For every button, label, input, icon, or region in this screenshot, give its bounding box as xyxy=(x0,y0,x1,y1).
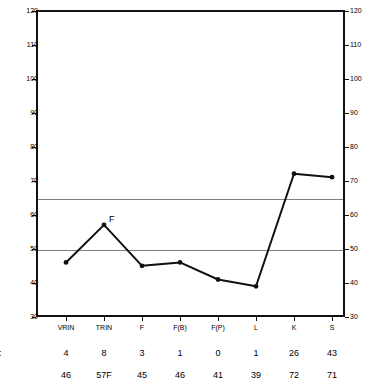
y-tick-mark xyxy=(345,45,349,46)
x-axis-label-trin: TRIN xyxy=(96,324,112,332)
cell-t-fb: 46 xyxy=(175,370,185,380)
cell-raw-f: 3 xyxy=(139,348,144,358)
cell-t-vrin: 46 xyxy=(61,370,71,380)
y-tick-label-right: 100 xyxy=(350,75,362,82)
score-table: ore: 4 8 3 1 0 1 26 43 : 46 57F 45 46 41… xyxy=(0,344,380,390)
cell-raw-fp: 0 xyxy=(215,348,220,358)
y-tick-label-right: 110 xyxy=(350,41,361,48)
cell-t-k: 72 xyxy=(289,370,299,380)
x-tick-mark xyxy=(218,317,219,321)
y-tick-label-right: 60 xyxy=(350,211,358,218)
y-tick-label-left: 50 xyxy=(30,245,38,252)
y-tick-label-left: 120 xyxy=(26,7,38,14)
y-tick-mark xyxy=(345,215,349,216)
cell-t-s: 71 xyxy=(327,370,337,380)
row-label-raw-score: ore: xyxy=(0,348,2,358)
x-tick-mark xyxy=(142,317,143,321)
cell-t-trin: 57F xyxy=(96,370,112,380)
cell-raw-l: 1 xyxy=(253,348,258,358)
y-tick-mark xyxy=(345,113,349,114)
x-axis-label-vrin: VRIN xyxy=(58,324,75,332)
y-tick-label-right: 120 xyxy=(350,7,362,14)
y-tick-label-left: 80 xyxy=(30,143,38,150)
point-annotation-trin-f: F xyxy=(109,215,115,224)
y-tick-label-right: 50 xyxy=(350,245,358,252)
cell-raw-k: 26 xyxy=(289,348,299,358)
cell-raw-vrin: 4 xyxy=(63,348,68,358)
y-tick-label-left: 40 xyxy=(30,279,38,286)
y-tick-label-left: 90 xyxy=(30,109,38,116)
y-tick-label-left: 60 xyxy=(30,211,38,218)
cell-t-fp: 41 xyxy=(213,370,223,380)
cell-t-f: 45 xyxy=(137,370,147,380)
x-tick-mark xyxy=(294,317,295,321)
y-tick-mark xyxy=(345,147,349,148)
x-tick-mark xyxy=(180,317,181,321)
y-tick-mark xyxy=(345,283,349,284)
reference-line-65 xyxy=(38,199,343,200)
plot-area xyxy=(36,10,345,317)
y-tick-label-right: 80 xyxy=(350,143,358,150)
x-tick-mark xyxy=(332,317,333,321)
x-axis-label-fp: F(P) xyxy=(211,324,225,332)
x-tick-mark xyxy=(66,317,67,321)
cell-raw-fb: 1 xyxy=(177,348,182,358)
y-tick-label-right: 90 xyxy=(350,109,358,116)
x-axis-label-l: L xyxy=(254,324,258,332)
y-tick-label-left: 30 xyxy=(30,313,38,320)
y-tick-mark xyxy=(345,317,349,318)
y-tick-label-right: 70 xyxy=(350,177,358,184)
y-tick-mark xyxy=(345,11,349,12)
y-tick-label-right: 40 xyxy=(350,279,358,286)
x-axis-label-f: F xyxy=(140,324,144,332)
reference-line-50 xyxy=(38,250,343,251)
x-tick-mark xyxy=(104,317,105,321)
mmpi-validity-profile-chart: 120 110 100 90 80 70 60 50 40 30 120 110… xyxy=(0,0,380,390)
y-tick-mark xyxy=(345,181,349,182)
cell-t-l: 39 xyxy=(251,370,261,380)
x-axis-label-s: S xyxy=(330,324,335,332)
y-tick-label-right: 30 xyxy=(350,313,358,320)
y-tick-label-left: 70 xyxy=(30,177,38,184)
cell-raw-s: 43 xyxy=(327,348,337,358)
y-tick-mark xyxy=(345,79,349,80)
y-tick-label-left: 110 xyxy=(27,41,38,48)
x-tick-mark xyxy=(256,317,257,321)
x-axis-label-k: K xyxy=(292,324,297,332)
cell-raw-trin: 8 xyxy=(101,348,106,358)
x-axis-label-fb: F(B) xyxy=(173,324,187,332)
y-tick-label-left: 100 xyxy=(26,75,38,82)
y-tick-mark xyxy=(345,249,349,250)
